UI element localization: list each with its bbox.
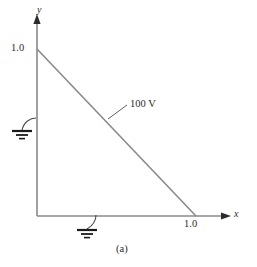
y-axis-tick-label: 1.0 <box>11 43 24 54</box>
y-axis-label: y <box>37 5 41 15</box>
x-axis-arrowhead-icon <box>221 212 231 219</box>
y-axis <box>33 14 40 216</box>
y-axis-arrowhead-icon <box>33 14 40 24</box>
ground-symbol-bottom <box>77 215 97 238</box>
ground-symbol-left <box>12 118 36 139</box>
x-axis-tick-label: 1.0 <box>184 219 197 230</box>
potential-annotation-label: 100 V <box>130 99 156 110</box>
voltage-leader-line <box>108 105 127 119</box>
potential-boundary-line <box>37 49 196 216</box>
x-axis-label: x <box>234 209 238 219</box>
ground-left-lead <box>22 118 36 130</box>
figure-caption: (a) <box>116 244 128 255</box>
figure-drawing <box>0 0 257 267</box>
ground-bottom-lead <box>87 215 96 229</box>
figure-container: y x 1.0 1.0 100 V (a) <box>0 0 257 267</box>
x-axis <box>37 212 231 219</box>
